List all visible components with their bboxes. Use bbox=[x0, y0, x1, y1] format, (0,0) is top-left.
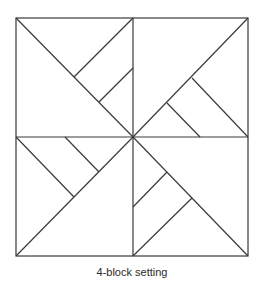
block-strip-line bbox=[99, 68, 133, 102]
block-bottom-left bbox=[16, 137, 133, 256]
block-strip-line bbox=[65, 137, 99, 172]
block-top-right bbox=[133, 18, 248, 137]
block-top-left bbox=[16, 18, 133, 137]
block-strip-line bbox=[74, 18, 133, 77]
block-strip-line bbox=[16, 137, 74, 197]
block-strip-line bbox=[133, 172, 167, 207]
block-strip-line bbox=[133, 198, 192, 256]
block-bottom-right bbox=[133, 137, 248, 256]
diagram-caption: 4-block setting bbox=[0, 266, 264, 278]
block-diagonal-line bbox=[133, 137, 248, 256]
block-strip-line bbox=[192, 78, 248, 137]
quilt-block-diagram bbox=[0, 0, 264, 270]
block-strip-line bbox=[167, 103, 200, 137]
